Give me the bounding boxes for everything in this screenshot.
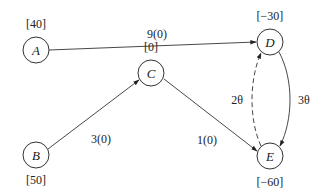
supply-label-a: [40] — [26, 17, 46, 31]
node-a: [40] A — [23, 17, 49, 63]
node-label-c: C — [147, 66, 156, 81]
node-b: B [50] — [23, 142, 49, 187]
node-e: E [−60] — [257, 143, 284, 189]
supply-label-c: [0] — [144, 40, 158, 54]
edge-d-e-curved — [279, 52, 290, 146]
edge-e-d-dashed — [252, 53, 261, 146]
network-flow-diagram: 9(0) 3(0) 1(0) 3θ 2θ [40] A [−30] D [0] … — [0, 0, 327, 194]
edge-label-c-e: 1(0) — [197, 133, 217, 147]
node-label-b: B — [32, 148, 40, 163]
edge-label-a-d: 9(0) — [147, 27, 167, 41]
node-label-a: A — [31, 43, 40, 58]
supply-label-d: [−30] — [257, 9, 284, 23]
supply-label-e: [−60] — [257, 175, 284, 189]
node-label-e: E — [265, 149, 274, 164]
node-c: [0] C — [138, 40, 164, 86]
edge-label-d-e: 3θ — [298, 93, 310, 107]
edge-label-b-c: 3(0) — [91, 132, 111, 146]
edge-label-e-d: 2θ — [231, 93, 243, 107]
node-label-d: D — [264, 35, 275, 50]
supply-label-b: [50] — [26, 173, 46, 187]
node-d: [−30] D — [257, 9, 284, 55]
